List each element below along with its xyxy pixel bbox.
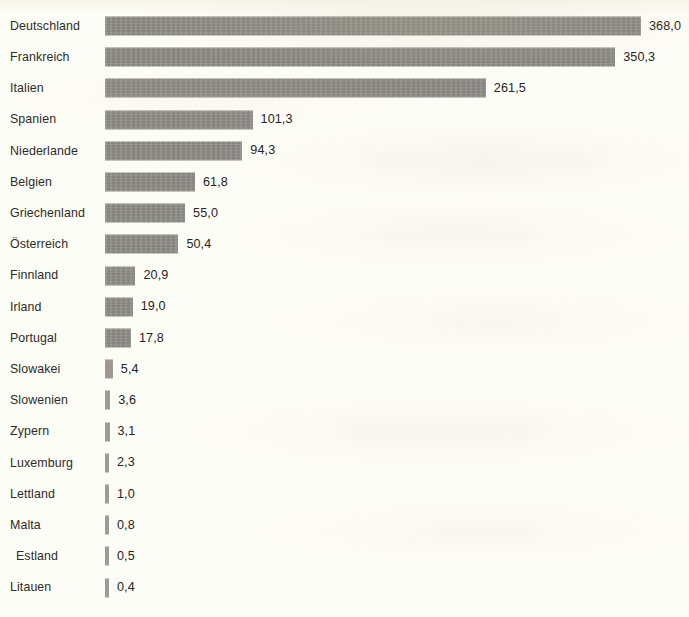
bar-row: Finnland20,9 [0,260,689,291]
category-label: Portugal [10,332,57,344]
bar-value-label: 0,8 [117,519,135,532]
bar-value-label: 50,4 [186,238,211,251]
bar-value-label: 61,8 [203,176,228,189]
bar-fill [105,17,641,36]
bar-value-label: 350,3 [623,51,655,64]
bar-fill [105,547,109,566]
bar-row: Italien261,5 [0,73,689,104]
bar-value-label: 3,6 [118,394,136,407]
bar-value-label: 5,4 [121,363,139,376]
bar-track: 350,3 [105,48,689,67]
bar-value-label: 94,3 [250,145,275,158]
category-label: Italien [10,82,44,94]
category-label: Deutschland [10,20,80,32]
bar-track: 55,0 [105,204,689,223]
bar-fill [105,48,615,67]
category-label: Estland [16,550,58,562]
bar-fill [105,297,133,316]
bar-row: Deutschland368,0 [0,11,689,42]
bar-row: Spanien101,3 [0,104,689,135]
bar-value-label: 3,1 [118,425,136,438]
bar-fill [105,422,110,441]
bar-fill [105,360,113,379]
bar-row: Lettland1,0 [0,479,689,510]
category-label: Belgien [10,176,52,188]
bar-row: Irland19,0 [0,291,689,322]
bar-value-label: 55,0 [193,207,218,220]
bar-row: Österreich50,4 [0,229,689,260]
category-label: Niederlande [10,145,78,157]
bar-track: 20,9 [105,266,689,285]
bar-fill [105,391,110,410]
bar-value-label: 0,4 [117,581,135,594]
bar-fill [105,79,486,98]
bar-fill [105,485,109,504]
bar-fill [105,329,131,348]
bar-fill [105,578,109,597]
category-label: Zypern [10,425,49,437]
category-label: Malta [10,519,41,531]
bar-fill [105,173,195,192]
bar-track: 3,6 [105,391,689,410]
bar-row: Litauen0,4 [0,572,689,603]
bar-row: Zypern3,1 [0,416,689,447]
category-label: Österreich [10,238,68,250]
bar-chart-page: Deutschland368,0Frankreich350,3Italien26… [0,0,689,617]
bar-value-label: 1,0 [117,488,135,501]
horizontal-bar-chart: Deutschland368,0Frankreich350,3Italien26… [0,0,689,617]
category-label: Lettland [10,488,55,500]
bar-row: Portugal17,8 [0,323,689,354]
bar-row: Griechenland55,0 [0,198,689,229]
bar-track: 50,4 [105,235,689,254]
bar-track: 17,8 [105,329,689,348]
bar-track: 368,0 [105,17,689,36]
category-label: Slowenien [10,394,68,406]
bar-fill [105,516,109,535]
bar-track: 19,0 [105,297,689,316]
bar-row: Slowakei5,4 [0,354,689,385]
bar-value-label: 17,8 [139,332,164,345]
category-label: Luxemburg [10,457,73,469]
bar-fill [105,141,242,160]
category-label: Frankreich [10,51,70,63]
bar-track: 101,3 [105,110,689,129]
bar-row: Malta0,8 [0,510,689,541]
bar-row: Estland0,5 [0,541,689,572]
bar-row: Luxemburg2,3 [0,447,689,478]
bar-track: 94,3 [105,141,689,160]
bar-value-label: 368,0 [649,20,681,33]
bar-value-label: 101,3 [261,113,293,126]
bar-track: 3,1 [105,422,689,441]
bar-value-label: 19,0 [141,301,166,314]
bar-track: 2,3 [105,453,689,472]
bar-row: Frankreich350,3 [0,42,689,73]
bar-row: Slowenien3,6 [0,385,689,416]
category-label: Griechenland [10,207,85,219]
category-label: Finnland [10,269,58,281]
category-label: Irland [10,301,42,313]
bar-fill [105,235,178,254]
category-label: Litauen [10,581,51,593]
bar-track: 61,8 [105,173,689,192]
bar-track: 5,4 [105,360,689,379]
bar-fill [105,453,109,472]
bar-value-label: 20,9 [143,269,168,282]
bar-fill [105,266,135,285]
category-label: Spanien [10,113,56,125]
bar-value-label: 261,5 [494,82,526,95]
bar-track: 1,0 [105,485,689,504]
bar-row: Belgien61,8 [0,167,689,198]
bar-value-label: 2,3 [117,457,135,470]
bar-fill [105,204,185,223]
bar-row: Niederlande94,3 [0,135,689,166]
bar-track: 0,8 [105,516,689,535]
bar-fill [105,110,253,129]
bar-track: 0,5 [105,547,689,566]
bar-track: 0,4 [105,578,689,597]
category-label: Slowakei [10,363,60,375]
bar-track: 261,5 [105,79,689,98]
bar-value-label: 0,5 [117,550,135,563]
